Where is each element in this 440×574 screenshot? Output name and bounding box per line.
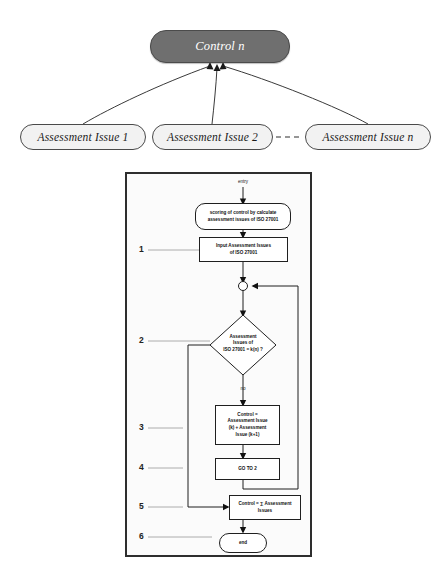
row-number-3: 3 — [139, 422, 144, 432]
process-box-line3: (k) + Assessment — [229, 425, 267, 432]
row-number-6: 6 — [139, 531, 144, 541]
go-to-2-box[interactable]: GO TO 2 — [215, 458, 280, 480]
figure-canvas: Control n Assessment Issue 1 Assessment … — [0, 0, 440, 574]
process-box-line4: Issue (k+1) — [236, 432, 260, 439]
input-box-line2: of ISO 27001 — [230, 250, 258, 257]
scoring-of-control-box[interactable]: scoring of control by calculate assessme… — [195, 203, 291, 230]
row-number-leaders — [148, 250, 212, 537]
end-node-label: end — [239, 540, 247, 547]
decision-diamond-text: Assessment Issues of ISO 27001 = k(n) ? — [207, 334, 279, 353]
entry-label: entry — [230, 179, 256, 184]
control-total-box[interactable]: Control = ∑ Assessment Issues — [229, 495, 301, 520]
sum-box-line1: Control = ∑ Assessment — [238, 501, 291, 508]
decision-line3: ISO 27001 = k(n) ? — [207, 347, 279, 353]
no-branch-label: no — [232, 386, 254, 391]
scoring-box-line2: assessment issues of ISO 27001 — [208, 217, 279, 224]
row-number-2: 2 — [139, 335, 144, 345]
scoring-box-line1: scoring of control by calculate — [210, 210, 277, 217]
input-box-line1: Input Assessment Issues — [216, 243, 271, 250]
end-node[interactable]: end — [219, 533, 267, 553]
row-number-1: 1 — [139, 244, 144, 254]
sum-box-line2: Issues — [258, 508, 272, 515]
row-number-5: 5 — [139, 501, 144, 511]
process-box-line2: Assessment Issue — [227, 418, 267, 425]
control-sum-of-issues-process-box[interactable]: Control = Assessment Issue (k) + Assessm… — [215, 405, 280, 445]
goto-box-label: GO TO 2 — [238, 466, 257, 473]
flowchart-connectors — [0, 0, 440, 574]
row-number-4: 4 — [139, 462, 144, 472]
input-assessment-issues-box[interactable]: Input Assessment Issues of ISO 27001 — [199, 237, 288, 262]
merge-junction-node — [239, 282, 248, 291]
process-box-line1: Control = — [237, 412, 257, 419]
